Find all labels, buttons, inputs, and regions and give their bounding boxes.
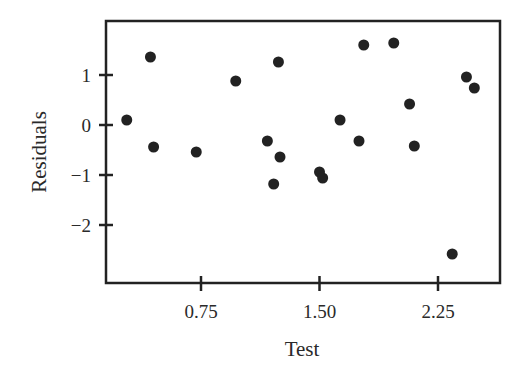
x-tick-label: 0.75 — [184, 301, 217, 322]
x-tick-label: 1.50 — [303, 301, 336, 322]
data-point — [354, 136, 365, 147]
data-point — [335, 115, 346, 126]
plot-frame — [106, 21, 500, 283]
data-point — [121, 115, 132, 126]
data-point — [145, 52, 156, 63]
data-point — [469, 83, 480, 94]
residual-scatter-chart: 0.751.502.25 10−1−2 Test Residuals — [0, 0, 529, 379]
data-point — [409, 141, 420, 152]
data-point — [148, 142, 159, 153]
data-point — [404, 99, 415, 110]
data-point — [388, 38, 399, 49]
data-point — [358, 40, 369, 51]
data-point — [268, 179, 279, 190]
data-point — [461, 72, 472, 83]
data-point — [273, 57, 284, 68]
y-tick-label: 0 — [82, 115, 92, 136]
data-point — [262, 136, 273, 147]
x-axis-title: Test — [285, 337, 320, 361]
data-point — [317, 173, 328, 184]
y-tick-label: −1 — [71, 165, 91, 186]
y-axis-title: Residuals — [27, 111, 51, 193]
data-point — [447, 249, 458, 260]
x-tick-label: 2.25 — [421, 301, 454, 322]
y-tick-label: 1 — [82, 65, 92, 86]
data-point — [191, 147, 202, 158]
y-tick-label: −2 — [71, 215, 91, 236]
data-points — [121, 38, 480, 260]
data-point — [275, 152, 286, 163]
data-point — [230, 76, 241, 87]
